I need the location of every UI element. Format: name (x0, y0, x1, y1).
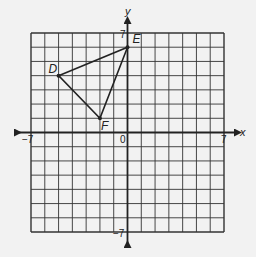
vertex-label-f: F (101, 119, 109, 133)
y-axis-label: y (124, 5, 132, 17)
origin-label: 0 (120, 134, 126, 145)
coordinate-plane: DEF x y −7 7 7 −7 0 (0, 0, 256, 257)
x-min-label: −7 (22, 134, 34, 145)
vertex-e (126, 45, 130, 49)
y-min-label: −7 (113, 228, 125, 239)
x-max-label: 7 (221, 134, 227, 145)
x-axis-label: x (239, 126, 246, 138)
vertex-label-d: D (49, 62, 58, 76)
y-max-label: 7 (120, 29, 126, 40)
triangle-def (59, 47, 128, 118)
vertex-label-e: E (133, 32, 142, 46)
